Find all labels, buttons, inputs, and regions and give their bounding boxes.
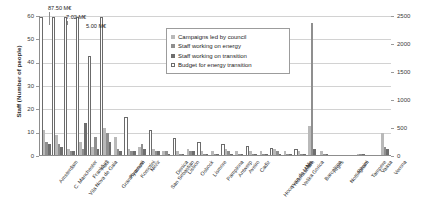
legend-item: Staff working on transition bbox=[171, 51, 285, 61]
y-tick-left: 30 bbox=[14, 83, 34, 89]
legend-label-campaigns: Campaigns led by council bbox=[178, 34, 246, 40]
y-tick-right: 1000 bbox=[397, 97, 419, 103]
legend-label-energy: Staff working on energy bbox=[178, 43, 241, 49]
legend-swatch-transition bbox=[171, 54, 175, 58]
legend-item: Campaigns led by council bbox=[171, 32, 285, 42]
x-axis-label: Arges bbox=[331, 159, 344, 174]
legend-swatch-energy bbox=[171, 44, 175, 48]
annotation-leader-line bbox=[49, 12, 50, 25]
annotation-leader-line bbox=[67, 21, 68, 25]
y-tick-right: 0 bbox=[397, 153, 419, 159]
x-axis-label: Verona bbox=[393, 159, 408, 176]
y-tick-right: 1500 bbox=[397, 69, 419, 75]
y-tickmark-right bbox=[391, 128, 394, 129]
y-tick-left: 0 bbox=[14, 153, 34, 159]
y-tick-left: 40 bbox=[14, 59, 34, 65]
legend-item: Budget for energy transition bbox=[171, 61, 285, 71]
y-tick-right: 2500 bbox=[397, 13, 419, 19]
y-tickmark-right bbox=[391, 156, 394, 157]
chart-container: Staff (Number of people) Annual budget f… bbox=[0, 0, 443, 223]
legend-label-transition: Staff working on transition bbox=[178, 53, 247, 59]
y-tickmark-right bbox=[391, 72, 394, 73]
legend-swatch-campaigns bbox=[171, 35, 175, 39]
y-tick-left: 10 bbox=[14, 129, 34, 135]
legend-swatch-budget bbox=[171, 63, 175, 67]
y-tickmark-right bbox=[391, 100, 394, 101]
legend-label-budget: Budget for energy transition bbox=[178, 62, 252, 68]
y-tickmark-right bbox=[391, 44, 394, 45]
y-tick-left: 20 bbox=[14, 106, 34, 112]
y-tick-left: 60 bbox=[14, 13, 34, 19]
y-tick-left: 50 bbox=[14, 36, 34, 42]
budget-annotation: 7.02 M€ bbox=[66, 14, 86, 20]
y-tick-right: 500 bbox=[397, 125, 419, 131]
y-tickmark-right bbox=[391, 16, 394, 17]
chart-legend: Campaigns led by council Staff working o… bbox=[166, 28, 290, 74]
budget-annotation: 5.00 M€ bbox=[86, 23, 106, 29]
budget-annotation: 87.50 M€ bbox=[48, 5, 71, 11]
y-tick-right: 2000 bbox=[397, 41, 419, 47]
y-tickmark-left bbox=[36, 156, 39, 157]
legend-item: Staff working on energy bbox=[171, 42, 285, 52]
